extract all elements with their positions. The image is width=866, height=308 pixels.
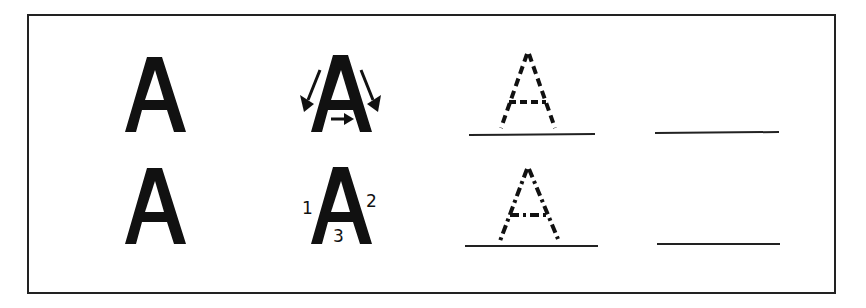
arrow-right-icon (331, 113, 354, 125)
stroke-number-2: 2 (366, 191, 377, 211)
writing-line-trace-row-1 (469, 134, 595, 135)
model-letter-row-2 (125, 168, 186, 244)
model-letter-row-1 (125, 57, 186, 132)
tracing-letter-row-2 (500, 169, 558, 241)
arrow-down-left-icon (300, 70, 320, 112)
writing-line-blank-row-1[interactable] (655, 132, 779, 133)
arrow-down-right-icon (361, 70, 381, 112)
tracing-letter-row-1 (501, 54, 555, 128)
worksheet-canvas: 1 2 3 (0, 0, 866, 308)
stroke-arrows-letter (300, 55, 381, 132)
stroke-number-1: 1 (302, 198, 313, 218)
stroke-numbers-letter: 1 2 3 (302, 167, 377, 246)
stroke-number-3: 3 (333, 226, 344, 246)
